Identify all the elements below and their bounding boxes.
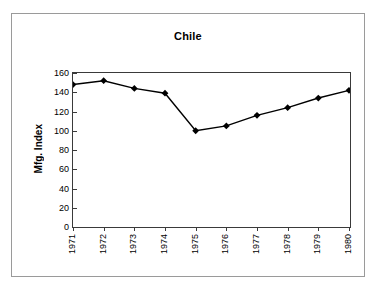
data-point-marker (131, 85, 138, 92)
y-tick-mark (73, 189, 77, 190)
y-tick-label: 100 (54, 126, 69, 135)
y-tick-label: 160 (54, 69, 69, 78)
x-tick-label: 1971 (68, 234, 77, 254)
y-tick-mark (73, 73, 77, 74)
x-tick-mark (104, 227, 105, 231)
y-axis-title: Mfg. Index (31, 72, 45, 226)
plot-area: 020406080100120140160 197119721973197419… (72, 72, 351, 228)
series-plot (73, 73, 350, 227)
y-tick-label: 60 (59, 165, 69, 174)
chart-screenshot: Chile Mfg. Index 020406080100120140160 1… (0, 0, 380, 292)
x-tick-label: 1973 (129, 234, 138, 254)
x-tick-mark (257, 227, 258, 231)
x-tick-label: 1978 (283, 234, 292, 254)
y-tick-mark (73, 131, 77, 132)
y-tick-label: 40 (59, 184, 69, 193)
y-tick-label: 0 (64, 223, 69, 232)
data-point-marker (315, 95, 322, 102)
data-point-marker (346, 87, 350, 94)
x-tick-label: 1976 (221, 234, 230, 254)
x-tick-mark (226, 227, 227, 231)
x-tick-mark (288, 227, 289, 231)
data-point-marker (254, 112, 261, 119)
data-point-marker (284, 104, 291, 111)
data-point-marker (223, 123, 230, 130)
x-tick-mark (349, 227, 350, 231)
figure-frame: Chile Mfg. Index 020406080100120140160 1… (11, 13, 365, 277)
series-line (73, 81, 349, 131)
y-tick-label: 20 (59, 203, 69, 212)
y-tick-label: 120 (54, 107, 69, 116)
x-tick-mark (196, 227, 197, 231)
y-tick-label: 80 (59, 146, 69, 155)
y-tick-label: 140 (54, 88, 69, 97)
x-tick-label: 1980 (344, 234, 353, 254)
x-tick-mark (73, 227, 74, 231)
x-tick-mark (318, 227, 319, 231)
x-tick-label: 1975 (191, 234, 200, 254)
chart-title: Chile (12, 30, 364, 42)
data-point-marker (100, 77, 107, 84)
y-tick-mark (73, 150, 77, 151)
x-tick-mark (165, 227, 166, 231)
y-tick-mark (73, 112, 77, 113)
x-tick-label: 1979 (313, 234, 322, 254)
x-tick-label: 1972 (99, 234, 108, 254)
x-tick-mark (134, 227, 135, 231)
y-tick-mark (73, 208, 77, 209)
x-tick-label: 1974 (160, 234, 169, 254)
series-markers (73, 77, 350, 134)
y-tick-mark (73, 92, 77, 93)
y-axis-title-label: Mfg. Index (33, 124, 44, 173)
x-tick-label: 1977 (252, 234, 261, 254)
data-point-marker (73, 81, 76, 88)
y-tick-mark (73, 169, 77, 170)
